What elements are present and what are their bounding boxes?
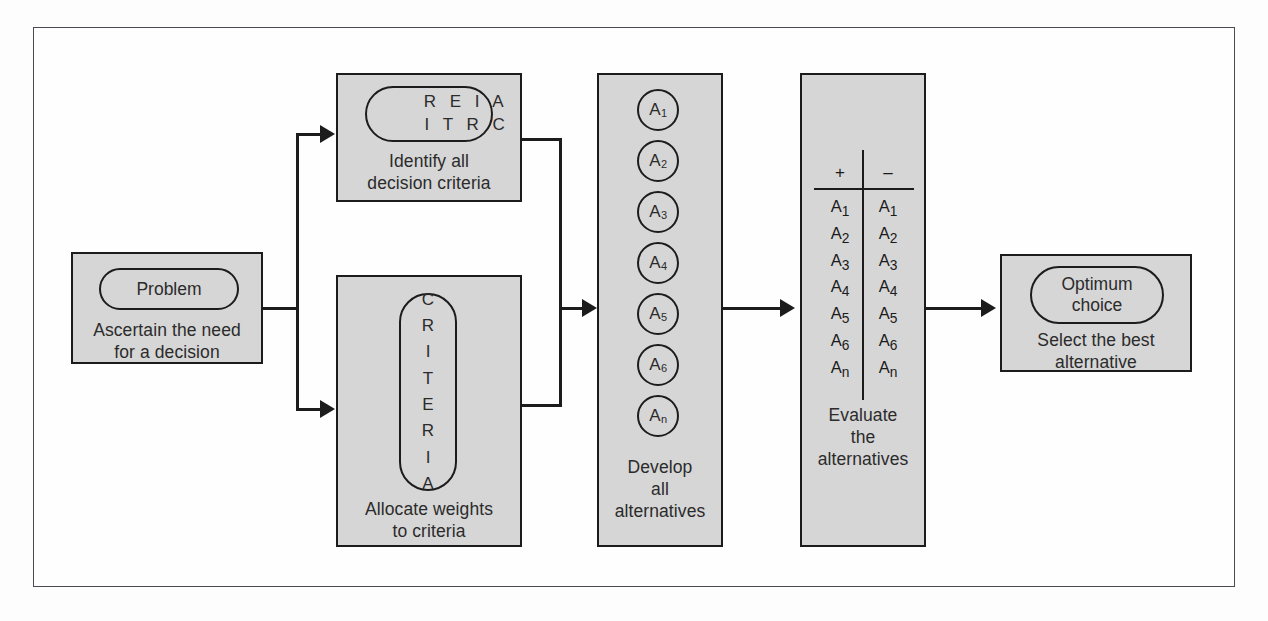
optimum-choice-pill-line2: choice	[1072, 295, 1123, 315]
evaluate-header-minus: –	[865, 163, 911, 183]
alternative-circle-base: A	[649, 253, 660, 273]
alternative-circle: A3	[637, 191, 679, 233]
alternative-circle: A5	[637, 293, 679, 335]
connector-problem-out	[263, 307, 299, 310]
evaluate-row-minus: A4	[865, 275, 911, 302]
evaluate-row-plus: A3	[817, 249, 863, 276]
evaluate-item-base: A	[831, 277, 842, 295]
allocate-weights-line1: Allocate weights	[338, 499, 520, 521]
alternative-circle: A2	[637, 140, 679, 182]
criteria-vertical-letter: I	[426, 339, 431, 365]
alternative-circle-subscript: 3	[661, 209, 667, 221]
develop-alternatives-line2: all	[599, 479, 721, 501]
alternative-circle-base: A	[649, 202, 660, 222]
evaluate-alternatives-line3: alternatives	[802, 449, 924, 471]
alternative-circle-base: A	[649, 406, 660, 426]
arrow-to-identify-criteria	[320, 125, 335, 143]
evaluate-row-plus: A1	[817, 195, 863, 222]
node-problem: Problem Ascertain the need for a decisio…	[71, 252, 263, 364]
alternative-circle: A4	[637, 242, 679, 284]
alternative-circle-base: A	[649, 355, 660, 375]
allocate-weights-line2: to criteria	[338, 521, 520, 543]
alternative-circle-subscript: 6	[661, 362, 667, 374]
alternative-circle-subscript: 2	[661, 158, 667, 170]
node-allocate-weights: CRITERIA Allocate weights to criteria	[336, 275, 522, 547]
connector-branch-bottom	[296, 408, 323, 411]
node-evaluate-alternatives: + – A1A2A3A4A5A6An A1A2A3A4A5A6An Evalua…	[800, 73, 926, 547]
criteria-vertical-letter: R	[422, 313, 434, 339]
evaluate-row-plus: A2	[817, 222, 863, 249]
criteria-scatter-letters: R E I A I T R C	[349, 68, 510, 160]
evaluate-column-minus: A1A2A3A4A5A6An	[865, 195, 911, 383]
evaluate-row-plus: An	[817, 356, 863, 383]
evaluate-item-subscript: 2	[842, 231, 850, 246]
criteria-scatter-row2: I T R C	[425, 115, 510, 134]
evaluate-item-subscript: 3	[890, 258, 898, 273]
criteria-vertical-letter: E	[422, 392, 433, 418]
connector-merge-vertical	[559, 138, 562, 407]
arrow-to-develop-alternatives	[582, 299, 597, 317]
evaluate-row-minus: A5	[865, 302, 911, 329]
evaluate-item-subscript: 6	[890, 338, 898, 353]
evaluate-item-base: A	[831, 197, 842, 215]
evaluate-row-minus: A3	[865, 249, 911, 276]
alternative-circle-subscript: 5	[661, 311, 667, 323]
evaluate-row-minus: A2	[865, 222, 911, 249]
evaluate-item-base: A	[831, 304, 842, 322]
criteria-vertical-letter: C	[422, 287, 434, 313]
evaluate-item-base: A	[879, 331, 890, 349]
evaluate-item-subscript: n	[842, 365, 850, 380]
evaluate-item-base: A	[879, 224, 890, 242]
connector-branch-top	[296, 133, 323, 136]
evaluate-table-horizontal-rule	[814, 188, 914, 190]
develop-alternatives-line3: alternatives	[599, 501, 721, 523]
alternative-circle-subscript: 1	[661, 107, 667, 119]
evaluate-alternatives-caption: Evaluate the alternatives	[802, 405, 924, 471]
develop-alternatives-line1: Develop	[599, 457, 721, 479]
evaluate-item-base: A	[879, 251, 890, 269]
evaluate-row-plus: A4	[817, 275, 863, 302]
identify-criteria-caption: Identify all decision criteria	[338, 151, 520, 195]
problem-caption-line2: for a decision	[73, 342, 261, 364]
optimum-choice-caption: Select the best alternative	[1002, 330, 1190, 374]
evaluate-item-base: A	[879, 277, 890, 295]
evaluate-column-plus: A1A2A3A4A5A6An	[817, 195, 863, 383]
alternative-circle: An	[637, 395, 679, 437]
evaluate-header-plus: +	[817, 163, 863, 183]
optimum-choice-line1: Select the best	[1002, 330, 1190, 352]
evaluate-item-subscript: 2	[890, 231, 898, 246]
optimum-choice-pill: Optimum choice	[1030, 266, 1164, 324]
criteria-vertical-letter: T	[423, 366, 433, 392]
identify-criteria-line2: decision criteria	[338, 173, 520, 195]
problem-caption-line1: Ascertain the need	[73, 320, 261, 342]
criteria-vertical-letter: R	[422, 418, 434, 444]
evaluate-item-base: A	[879, 197, 890, 215]
arrow-to-allocate-weights	[320, 400, 335, 418]
alternative-circle-base: A	[649, 100, 660, 120]
evaluate-row-minus: An	[865, 356, 911, 383]
evaluate-item-base: A	[831, 224, 842, 242]
arrow-to-evaluate-alternatives	[780, 299, 795, 317]
connector-allocate-out	[522, 404, 562, 407]
allocate-weights-caption: Allocate weights to criteria	[338, 499, 520, 543]
evaluate-item-subscript: 5	[890, 312, 898, 327]
evaluate-item-subscript: 4	[842, 285, 850, 300]
problem-pill: Problem	[99, 268, 239, 310]
node-develop-alternatives: A1A2A3A4A5A6An Develop all alternatives	[597, 73, 723, 547]
connector-identify-out	[522, 138, 562, 141]
criteria-vertical-letter: A	[422, 471, 433, 497]
arrow-to-optimum-choice	[981, 299, 996, 317]
evaluate-row-plus: A6	[817, 329, 863, 356]
evaluate-alternatives-line2: the	[802, 427, 924, 449]
evaluate-alternatives-line1: Evaluate	[802, 405, 924, 427]
evaluate-item-subscript: 1	[842, 204, 850, 219]
optimum-choice-pill-line1: Optimum	[1062, 274, 1133, 294]
connector-branch-vertical	[296, 133, 299, 410]
alternative-circle: A1	[637, 89, 679, 131]
criteria-vertical-letters: CRITERIA	[422, 287, 434, 498]
connector-evaluate-out	[926, 307, 984, 310]
develop-alternatives-caption: Develop all alternatives	[599, 457, 721, 523]
alternative-circle-subscript: n	[661, 413, 667, 425]
node-optimum-choice: Optimum choice Select the best alternati…	[1000, 254, 1192, 372]
alternative-circle-base: A	[649, 304, 660, 324]
